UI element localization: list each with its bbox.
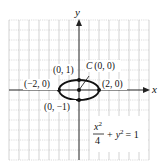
ellipse-diagram: x y (0, 1) (−2, 0) (2, 0) (0, −1) C(0, 0… (0, 0, 165, 165)
label-top: (0, 1) (53, 65, 74, 76)
label-left: (−2, 0) (24, 79, 50, 90)
eq-denominator: 4 (95, 135, 100, 146)
point-labels: (0, 1) (−2, 0) (2, 0) (0, −1) C(0, 0) (23, 60, 127, 113)
center-pointer-line (79, 76, 89, 90)
y-axis-label: y (74, 6, 80, 18)
point-right (97, 88, 101, 92)
label-center: C(0, 0) (86, 61, 115, 72)
label-right: (2, 0) (102, 79, 123, 90)
label-bottom: (0, −1) (44, 102, 70, 113)
center-letter: C (86, 61, 93, 71)
x-axis-label: x (151, 83, 157, 95)
point-center (77, 88, 81, 92)
center-coords: (0, 0) (94, 61, 115, 72)
point-top (77, 78, 81, 82)
equation: x2 4 +y2= 1 (90, 116, 148, 152)
y-axis-arrow-icon (76, 19, 82, 26)
point-bottom (77, 98, 81, 102)
